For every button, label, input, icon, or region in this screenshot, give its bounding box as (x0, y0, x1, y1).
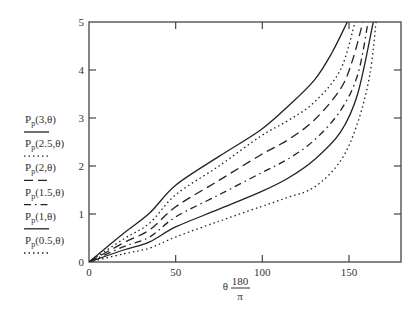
plot-border (89, 22, 401, 262)
chart: 050100150012345 Pp(3,θ)Pp(2.5,θ)Pp(2,θ)P… (0, 0, 420, 321)
legend-label-3: Pp(2,θ) (25, 161, 56, 176)
y-tick-label: 5 (79, 16, 85, 28)
legend-label-2: Pp(2.5,θ) (25, 137, 65, 152)
series-lines (89, 22, 376, 262)
series-line-4 (89, 22, 368, 262)
x-label-denominator: π (237, 290, 243, 302)
y-tick-label: 0 (79, 256, 85, 268)
x-label-numerator: 180 (232, 275, 249, 287)
axis-ticks (89, 22, 401, 262)
series-line-5 (89, 22, 373, 262)
x-axis-label: θ 180 π (223, 275, 250, 302)
x-tick-label: 50 (170, 266, 182, 278)
x-tick-label: 150 (341, 266, 358, 278)
x-tick-label: 100 (254, 266, 271, 278)
y-tick-label: 3 (79, 112, 85, 124)
legend-label-5: Pp(1,θ) (25, 210, 56, 225)
x-tick-label: 0 (86, 266, 92, 278)
legend-label-4: Pp(1.5,θ) (25, 186, 65, 201)
y-tick-label: 2 (79, 160, 85, 172)
plot-frame (89, 22, 401, 262)
tick-labels: 050100150012345 (79, 16, 358, 278)
legend-label-1: Pp(3,θ) (25, 113, 56, 128)
y-tick-label: 4 (79, 64, 85, 76)
series-line-2 (89, 22, 355, 262)
legend: Pp(3,θ)Pp(2.5,θ)Pp(2,θ)Pp(1.5,θ)Pp(1,θ)P… (24, 113, 65, 253)
legend-label-6: Pp(0.5,θ) (25, 234, 65, 249)
y-tick-label: 1 (79, 208, 85, 220)
series-line-1 (89, 22, 347, 262)
x-label-theta: θ (223, 280, 228, 292)
series-line-3 (89, 22, 363, 262)
